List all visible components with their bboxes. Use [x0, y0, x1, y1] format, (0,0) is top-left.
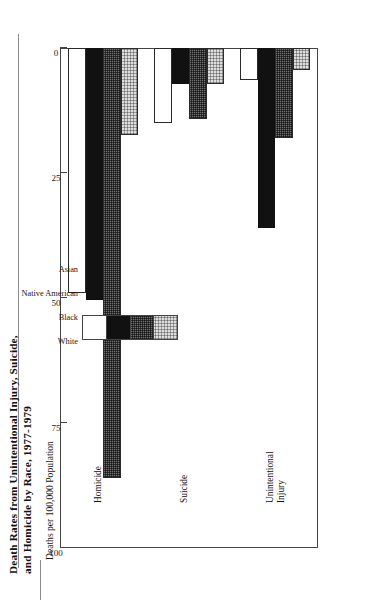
figure-page: Death Rates from Unintentional Injury, S… — [0, 0, 385, 602]
legend-label-white: White — [58, 337, 78, 346]
chart-legend: WhiteBlackNative AmericanAsian — [82, 314, 178, 340]
legend-label-asian: Asian — [59, 265, 78, 274]
legend-label-native-american: Native American — [22, 289, 78, 298]
bar-unintentional-injury-white — [68, 48, 86, 293]
legend-label-black: Black — [59, 313, 78, 322]
tick-label: 100 — [49, 548, 63, 558]
bar-suicide-white — [154, 48, 172, 123]
bar-suicide-black — [172, 48, 190, 85]
tick-label: 50 — [52, 298, 61, 308]
bar-suicide-native-american — [189, 48, 207, 119]
page-title-line-2: and Homicide by Race, 1977-1979 — [20, 274, 34, 574]
tick-mark — [60, 47, 67, 48]
bar-unintentional-injury-black — [86, 48, 104, 301]
legend-swatch-native-american — [130, 316, 154, 339]
value-axis-title: Deaths per 100,000 Population — [44, 441, 55, 560]
bar-homicide-black — [258, 48, 276, 228]
legend-swatches — [82, 315, 178, 340]
bar-unintentional-injury-native-american — [103, 48, 121, 478]
tick-label: 75 — [52, 423, 61, 433]
category-label-line: Homicide — [93, 466, 104, 503]
category-label: Suicide — [179, 475, 190, 503]
bar-homicide-native-american — [275, 48, 293, 138]
bar-suicide-asian — [207, 48, 225, 85]
tick-mark — [60, 422, 67, 423]
tick-label: 0 — [54, 48, 59, 58]
bar-homicide-white — [240, 48, 258, 81]
tick-mark — [60, 172, 67, 173]
tick-label: 25 — [52, 173, 61, 183]
category-label: Homicide — [93, 466, 104, 503]
bar-homicide-asian — [293, 48, 311, 71]
page-title: Death Rates from Unintentional Injury, S… — [6, 274, 34, 574]
category-label-line: Injury — [276, 451, 287, 503]
legend-swatch-asian — [153, 316, 177, 339]
page-rule-bottom — [40, 560, 41, 600]
legend-swatch-white — [83, 316, 106, 339]
category-label-line: Unintentional — [265, 451, 276, 503]
bar-unintentional-injury-asian — [121, 48, 139, 136]
category-label: UnintentionalInjury — [265, 451, 287, 503]
legend-swatch-black — [106, 316, 130, 339]
page-title-line-1: Death Rates from Unintentional Injury, S… — [6, 274, 20, 574]
category-label-line: Suicide — [179, 475, 190, 503]
